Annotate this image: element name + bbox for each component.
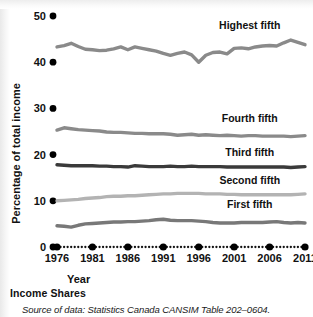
y-tick-label: 40	[34, 56, 46, 68]
x-axis-dot	[176, 246, 178, 248]
x-axis-dot	[212, 246, 214, 248]
x-tick-dot	[53, 243, 60, 250]
x-tick-dot	[160, 243, 167, 250]
x-axis-dot	[297, 246, 299, 248]
figure-container: 01020304050 1976198119861991199620012006…	[0, 0, 313, 317]
y-tick-dot	[50, 105, 57, 112]
x-axis-dot	[148, 246, 150, 248]
x-tick-label: 1991	[151, 252, 175, 264]
series-label-first-fifth: First fifth	[227, 198, 273, 210]
x-axis-dot	[293, 246, 295, 248]
y-axis-group: 01020304050	[34, 10, 57, 253]
x-axis-dot	[66, 246, 68, 248]
x-axis-dot	[247, 246, 249, 248]
x-tick-dot	[89, 243, 96, 250]
income-shares-line-chart: 01020304050 1976198119861991199620012006…	[0, 0, 313, 285]
x-axis-dot	[222, 246, 224, 248]
x-axis-dot	[279, 246, 281, 248]
figure-title: Income Shares	[10, 287, 310, 299]
x-axis-dot	[152, 246, 154, 248]
y-tick-label: 10	[34, 195, 46, 207]
x-axis-dot	[183, 246, 185, 248]
x-tick-label: 1981	[80, 252, 104, 264]
y-axis-title: Percentage of total income	[10, 83, 22, 224]
x-axis-dot	[251, 246, 253, 248]
x-axis-dot	[180, 246, 182, 248]
x-tick-dot	[195, 243, 202, 250]
x-axis-dot	[254, 246, 256, 248]
x-axis-dot	[244, 246, 246, 248]
x-axis-dot	[187, 246, 189, 248]
x-axis-dot	[113, 246, 115, 248]
y-tick-dot	[50, 59, 57, 66]
x-axis-dot	[84, 246, 86, 248]
x-tick-label: 1996	[186, 252, 210, 264]
x-axis-dot	[98, 246, 100, 248]
series-line-highest-fifth	[57, 40, 305, 62]
x-axis-dot	[141, 246, 143, 248]
series-label-fourth-fifth: Fourth fifth	[222, 112, 278, 124]
x-axis-title: Year	[67, 273, 91, 285]
x-axis-dot	[261, 246, 263, 248]
x-axis-dot	[109, 246, 111, 248]
x-axis-dot	[208, 246, 210, 248]
x-axis-group: 19761981198619911996200120062011	[45, 243, 313, 264]
series-line-first-fifth	[57, 219, 305, 227]
x-axis-dot	[226, 246, 228, 248]
x-tick-dot	[266, 243, 273, 250]
x-axis-dot	[105, 246, 107, 248]
x-axis-dot	[137, 246, 139, 248]
y-tick-label: 30	[34, 102, 46, 114]
x-axis-dot	[290, 246, 292, 248]
x-tick-label: 2011	[293, 252, 313, 264]
x-axis-dot	[134, 246, 136, 248]
x-axis-dot	[190, 246, 192, 248]
x-axis-dot	[116, 246, 118, 248]
x-tick-dot	[124, 243, 131, 250]
x-axis-dot	[155, 246, 157, 248]
y-tick-label: 20	[34, 149, 46, 161]
x-axis-dot	[276, 246, 278, 248]
x-tick-dot	[231, 243, 238, 250]
x-axis-dot	[120, 246, 122, 248]
y-tick-dot	[50, 151, 57, 158]
x-tick-label: 1976	[45, 252, 69, 264]
x-axis-dot	[173, 246, 175, 248]
x-tick-label: 2006	[257, 252, 281, 264]
chart-svg: 01020304050 1976198119861991199620012006…	[0, 0, 313, 285]
x-tick-label: 1986	[116, 252, 140, 264]
x-tick-dot	[301, 243, 308, 250]
x-axis-dot	[169, 246, 171, 248]
series-label-highest-fifth: Highest fifth	[219, 19, 280, 31]
x-tick-label: 2001	[222, 252, 246, 264]
x-axis-dot	[102, 246, 104, 248]
series-label-third-fifth: Third fifth	[225, 146, 274, 158]
x-axis-dot	[74, 246, 76, 248]
x-axis-dot	[215, 246, 217, 248]
y-tick-dot	[50, 13, 57, 20]
series-line-third-fifth	[57, 165, 305, 168]
series-label-second-fifth: Second fifth	[219, 174, 280, 186]
y-tick-label: 50	[34, 10, 46, 22]
x-axis-dot	[258, 246, 260, 248]
x-axis-dot	[81, 246, 83, 248]
x-axis-dot	[240, 246, 242, 248]
x-axis-dot	[286, 246, 288, 248]
figure-source: Source of data: Statistics Canada CANSIM…	[22, 304, 310, 315]
x-axis-dot	[283, 246, 285, 248]
x-axis-dot	[63, 246, 65, 248]
x-axis-dot	[219, 246, 221, 248]
caption-block: Income Shares Source of data: Statistics…	[10, 287, 310, 315]
x-axis-dot	[144, 246, 146, 248]
x-axis-dot	[70, 246, 72, 248]
x-axis-dot	[77, 246, 79, 248]
series-line-fourth-fifth	[57, 128, 305, 137]
x-axis-dot	[205, 246, 207, 248]
